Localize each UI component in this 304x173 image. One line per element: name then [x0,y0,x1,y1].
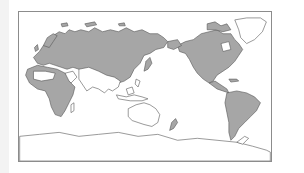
madagascar [71,103,74,113]
arctic-archipelago [207,22,231,32]
sahara-unfilled [33,71,55,81]
caribbean-islands [229,79,239,82]
left-margin-strip [0,0,9,173]
antarctic-peninsula [237,136,249,144]
britain [34,45,38,52]
north-america-landmass [178,30,243,83]
indonesia [116,95,148,101]
greenland [235,18,267,44]
japan [144,57,152,71]
world-map-svg [19,12,271,161]
novaya-zemlya [85,22,97,27]
australia [128,103,160,127]
svalbard [61,23,68,27]
south-america-landmass [225,91,261,140]
new-zealand [170,119,178,131]
world-map: World map showing shaded distribution [18,11,272,162]
central-america [209,81,229,93]
philippines [135,79,140,87]
borneo [126,87,134,95]
hudson-bay [221,42,231,52]
siberian-islands [118,23,125,26]
